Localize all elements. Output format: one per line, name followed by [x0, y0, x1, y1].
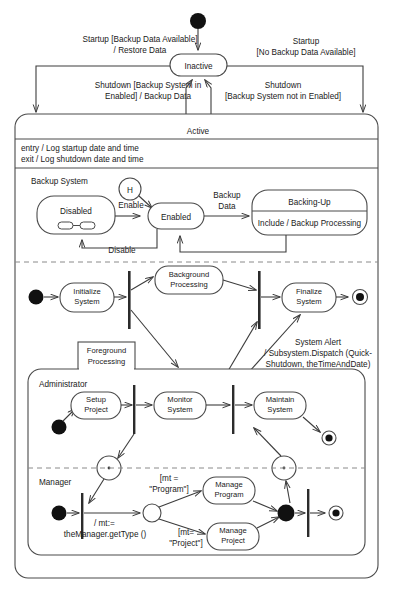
- action-monitor-line1: Monitor: [167, 395, 193, 404]
- label-system-alert-3: Shutdown, theTimeAndDate): [266, 360, 371, 369]
- active-entry-action: entry / Log startup date and time: [21, 144, 139, 153]
- state-disabled[interactable]: Disabled: [37, 196, 115, 234]
- history-label: H: [127, 186, 133, 195]
- label-enable: Enable: [118, 201, 144, 210]
- action-initialize-system[interactable]: Initialize System: [60, 283, 114, 312]
- label-backup-data-2: Data: [218, 202, 236, 211]
- action-manage-project[interactable]: Manage Project: [207, 523, 259, 550]
- label-guard-project-2: "Project"]: [169, 539, 203, 548]
- action-maintain-system[interactable]: Maintain System: [254, 392, 306, 419]
- action-manage-program[interactable]: Manage Program: [203, 477, 255, 504]
- label-startup-restore-2: / Restore Data: [114, 46, 167, 55]
- label-startup-nobackup-2: [No Backup Data Available]: [256, 48, 355, 57]
- action-manage-program-line1: Manage: [215, 480, 242, 489]
- state-backing-up-body: Include / Backup Processing: [258, 219, 362, 228]
- action-maintain-line1: Maintain: [266, 395, 295, 404]
- label-gettype-1: / mt:=: [94, 519, 115, 528]
- action-initialize-line1: Initialize: [73, 287, 100, 296]
- label-shutdown-nobackup-1: Shutdown: [265, 81, 302, 90]
- join-bar-activity: [258, 271, 261, 329]
- label-shutdown-backup-2: Enabled] / Backup Data: [105, 92, 191, 101]
- action-manage-program-line2: Program: [214, 490, 243, 499]
- history-pseudostate[interactable]: H: [119, 178, 141, 200]
- final-node-activity: [353, 290, 368, 305]
- action-finalize-line1: Finalize: [296, 287, 322, 296]
- state-backing-up-label: Backing-Up: [288, 198, 331, 207]
- fork-bar-activity: [128, 271, 131, 329]
- join-bar-administrator: [232, 385, 234, 434]
- action-background-line2: Processing: [170, 280, 208, 289]
- state-enabled-label: Enabled: [161, 213, 191, 222]
- tab-foreground-processing: Foreground Processing: [78, 342, 135, 370]
- active-exit-action: exit / Log shutdown date and time: [21, 155, 144, 164]
- initial-node-top: [190, 13, 206, 29]
- action-background-processing[interactable]: Background Processing: [155, 266, 223, 294]
- final-node-manager: [329, 506, 343, 520]
- initial-node-manager: [52, 506, 67, 521]
- join-bar-manager: [307, 489, 309, 537]
- tab-foreground-line2: Processing: [88, 357, 126, 366]
- action-monitor-line2: System: [167, 405, 192, 414]
- state-enabled[interactable]: Enabled: [148, 203, 204, 229]
- action-monitor-system[interactable]: Monitor System: [154, 392, 206, 419]
- label-guard-program-2: "Program"]: [149, 485, 188, 494]
- label-guard-program-1: [mt =: [160, 474, 179, 483]
- fork-bar-administrator: [133, 385, 135, 434]
- action-manage-project-line1: Manage: [219, 526, 246, 535]
- state-disabled-label: Disabled: [60, 207, 92, 216]
- decision-node-manager[interactable]: [143, 504, 161, 522]
- state-inactive[interactable]: Inactive: [170, 54, 227, 76]
- label-shutdown-nobackup-2: [Backup System not in Enabled]: [225, 92, 341, 101]
- action-setup-project[interactable]: Setup Project: [71, 392, 121, 419]
- label-system-alert-2: / Subsystem.Dispatch (Quick-: [264, 349, 372, 358]
- initial-node-activity: [29, 290, 44, 305]
- label-startup-restore-1: Startup [Backup Data Available]: [83, 35, 198, 44]
- label-system-alert-1: System Alert: [295, 338, 342, 347]
- initial-node-administrator: [52, 420, 67, 435]
- swimlane-administrator-label: Administrator: [39, 380, 88, 389]
- state-active-label: Active: [187, 127, 210, 136]
- action-background-line1: Background: [169, 270, 210, 279]
- merge-node-manager: [278, 505, 295, 522]
- action-manage-project-line2: Project: [221, 536, 246, 545]
- action-finalize-line2: System: [296, 297, 321, 306]
- uml-state-machine-diagram: Inactive Startup [Backup Data Available]…: [0, 0, 395, 599]
- swimlane-manager-label: Manager: [39, 478, 72, 487]
- label-startup-nobackup-1: Startup: [293, 37, 320, 46]
- tab-foreground-line1: Foreground: [87, 346, 126, 355]
- state-inactive-label: Inactive: [184, 62, 213, 71]
- action-maintain-line2: System: [267, 405, 292, 414]
- final-node-administrator: [322, 431, 336, 445]
- action-setup-line2: Project: [84, 405, 109, 414]
- diagram-canvas: Inactive Startup [Backup Data Available]…: [0, 0, 395, 599]
- action-finalize-system[interactable]: Finalize System: [282, 283, 336, 312]
- label-backup-data-1: Backup: [213, 191, 241, 200]
- action-initialize-line2: System: [74, 297, 99, 306]
- action-setup-line1: Setup: [86, 395, 106, 404]
- label-disable: Disable: [108, 246, 136, 255]
- label-gettype-2: theManager.getType (): [64, 530, 147, 539]
- state-backing-up[interactable]: Backing-Up Include / Backup Processing: [252, 190, 367, 235]
- region-backup-system-label: Backup System: [31, 177, 88, 186]
- edge-shutdown-nobackup: [205, 80, 211, 118]
